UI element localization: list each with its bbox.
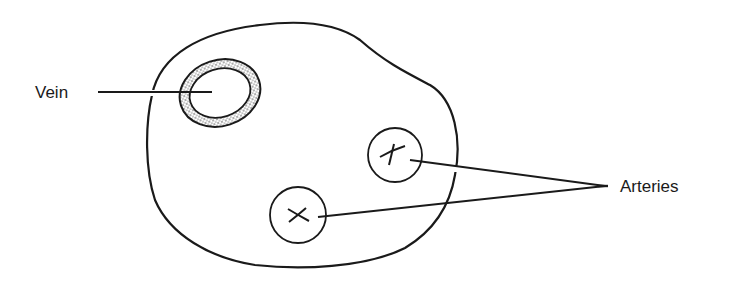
artery-2-icon [270,187,326,243]
artery-1-leader-line [410,160,605,186]
diagram-canvas: Vein Arteries [0,0,740,282]
artery-2-leader-line [318,186,605,217]
vein-label: Vein [35,84,68,101]
arteries-label: Arteries [620,178,679,195]
diagram-svg [0,0,740,282]
artery-1-icon [368,128,422,182]
